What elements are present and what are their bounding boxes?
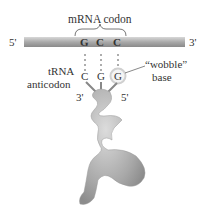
- trna-label: tRNA: [48, 66, 74, 77]
- codon-brace: [75, 24, 126, 36]
- wobble-label: “wobble”: [145, 59, 187, 70]
- mrna-strand: [24, 37, 185, 47]
- trna-base-3-wobble: G: [114, 71, 122, 82]
- wobble-base-label: base: [152, 72, 172, 83]
- mrna-codon-label: mRNA codon: [68, 14, 132, 25]
- mrna-base-1: G: [80, 37, 89, 48]
- trna-base-1: C: [81, 71, 88, 82]
- trna-diagram: [0, 0, 205, 216]
- mrna-base-2: C: [96, 37, 104, 48]
- trna-base-2: G: [97, 71, 105, 82]
- trna-3prime-label: 3': [76, 92, 83, 103]
- trna-5prime-label: 5': [121, 92, 128, 103]
- anticodon-label: anticodon: [27, 79, 70, 90]
- base-pair-dots: [84, 54, 119, 71]
- wobble-leader: [125, 66, 145, 73]
- mrna-3prime-label: 3': [189, 37, 196, 48]
- mrna-5prime-label: 5': [9, 37, 16, 48]
- mrna-base-3: C: [113, 37, 121, 48]
- trna-body: [80, 89, 146, 204]
